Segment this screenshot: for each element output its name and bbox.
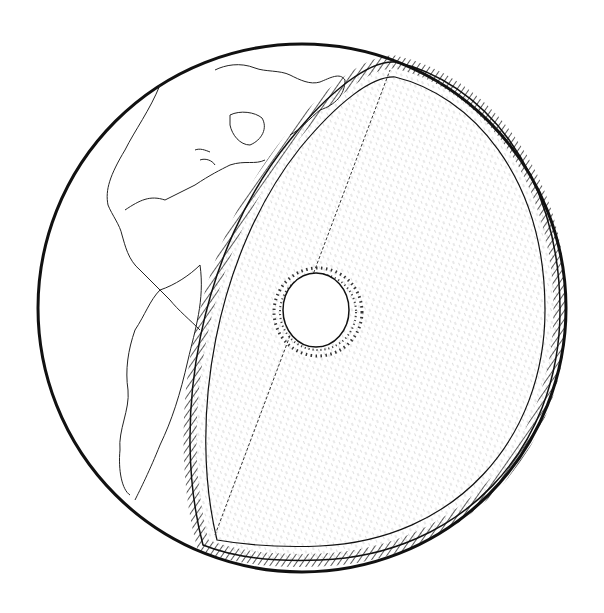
inner-core — [283, 273, 349, 347]
earth-cutaway-illustration — [0, 0, 604, 613]
globe-drawing — [0, 0, 604, 613]
